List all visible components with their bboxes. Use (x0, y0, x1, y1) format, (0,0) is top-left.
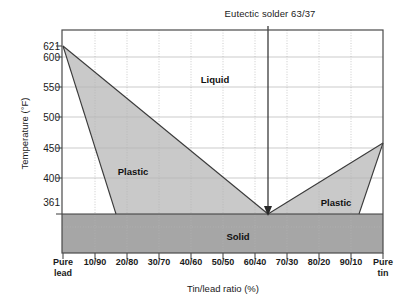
x-tick-pure-tin-line1: Pure (363, 257, 403, 268)
region-label-liquid: Liquid (185, 74, 245, 85)
phase-diagram-figure: Eutectic solder 63/37 Temperature (°F) T… (0, 0, 404, 306)
x-tick-pure-tin-line2: tin (363, 268, 403, 279)
y-tick-marks (56, 46, 62, 214)
x-tick-pure-lead-line2: lead (43, 268, 83, 279)
region-label-plastic-left: Plastic (105, 166, 161, 177)
x-tick-pure-tin: Pure tin (363, 257, 403, 278)
region-label-plastic-right: Plastic (308, 197, 364, 208)
region-label-solid: Solid (210, 231, 266, 242)
